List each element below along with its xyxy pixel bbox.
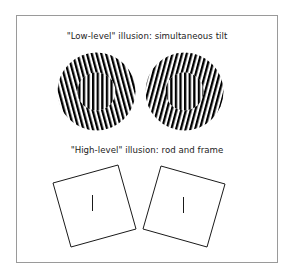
rod-and-frame-right-stimulus xyxy=(143,166,225,247)
rod-and-frame-left-stimulus xyxy=(53,165,136,247)
left-center-grating xyxy=(78,73,116,111)
illusion-artwork xyxy=(0,0,294,277)
simultaneous-tilt-right-stimulus xyxy=(146,53,224,131)
right-center-grating xyxy=(166,73,204,111)
simultaneous-tilt-left-stimulus xyxy=(58,53,136,131)
left-tilted-frame xyxy=(53,165,136,247)
